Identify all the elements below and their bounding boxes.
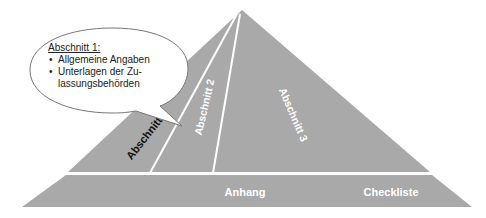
- callout-bullet-1: Allgemeine Angaben: [58, 54, 150, 65]
- callout-bullet-2-line1: Unterlagen der Zu-: [58, 66, 142, 77]
- callout-title: Abschnitt 1:: [48, 42, 100, 53]
- callout-bullet-2-line2: lassungsbehörden: [58, 78, 140, 89]
- band-label-anhang: Anhang: [225, 186, 266, 198]
- callout-bullet-1-mark: •: [49, 54, 53, 65]
- band-label-checkliste: Checkliste: [363, 186, 418, 198]
- pyramid-diagram: Abschnitt 1 Abschnitt 2 Abschnitt 3 Anha…: [0, 0, 486, 218]
- callout-bullet-2-mark: •: [49, 66, 53, 77]
